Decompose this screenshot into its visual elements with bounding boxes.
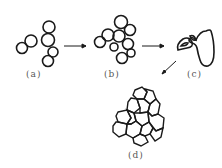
stage-d-grains [113,87,164,146]
label-c: (c) [187,69,202,79]
label-b: (b) [104,69,120,79]
label-a: (a) [26,69,41,79]
stage-a-grains [17,21,59,67]
arrow-a-to-b [64,44,86,48]
arrow-c-to-d [162,61,176,74]
label-d: (d) [128,150,144,160]
diagram-canvas [0,0,222,168]
arrow-b-to-c [142,44,164,48]
stage-b-grains [95,16,136,64]
stage-c-grain [178,30,214,66]
